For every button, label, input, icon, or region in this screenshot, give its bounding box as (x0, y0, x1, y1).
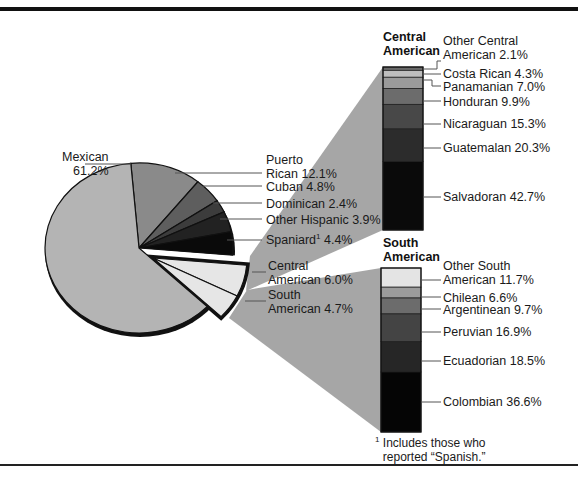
bar-segment-nicaraguan (383, 104, 423, 129)
bar-segment-chilean (381, 287, 421, 298)
south-american-heading: South American (383, 236, 440, 264)
label-panamanian: Panamanian 7.0% (443, 80, 545, 94)
label-other-south: Other South American 11.7% (443, 259, 534, 287)
bar-segment-honduran (383, 88, 423, 104)
pie-chart (45, 163, 247, 337)
label-other-hispanic: Other Hispanic 3.9% (266, 213, 381, 227)
label-argentinean: Argentinean 9.7% (443, 303, 542, 317)
bar-segment-ecuadorian (381, 342, 421, 372)
label-cuban: Cuban 4.8% (266, 180, 335, 194)
label-puerto-rican: Puerto Rican 12.1% (266, 153, 337, 181)
label-dominican: Dominican 2.4% (266, 197, 357, 211)
label-ecuadorian: Ecuadorian 18.5% (443, 354, 545, 368)
label-guatemalan: Guatemalan 20.3% (443, 141, 550, 155)
footnote-text: Includes those who reported “Spanish.” (383, 436, 486, 464)
bar-segment-peruvian (381, 314, 421, 342)
central-american-heading: Central American (383, 30, 440, 58)
bar-segment-colombian (381, 372, 421, 432)
central-leader-lines (423, 61, 441, 197)
footnote: 1 Includes those who reported “Spanish.” (375, 436, 486, 464)
label-spaniard-value: 4.4% (321, 233, 353, 247)
label-salvadoran: Salvadoran 42.7% (443, 190, 545, 204)
bar-segment-panamanian (383, 77, 423, 88)
bar-segment-guatemalan (383, 129, 423, 162)
label-central-american: Central American 6.0% (268, 259, 353, 287)
south-american-stacked-bar (381, 268, 421, 432)
label-nicaraguan: Nicaraguan 15.3% (443, 117, 546, 131)
label-colombian: Colombian 36.6% (443, 395, 542, 409)
bar-segment-argentinean (381, 298, 421, 314)
label-costa-rican: Costa Rican 4.3% (443, 67, 543, 81)
label-spaniard-name: Spaniard (266, 233, 316, 247)
bar-segment-costa-rican (383, 70, 423, 77)
label-spaniard: Spaniard1 4.4% (266, 233, 352, 247)
label-other-central: Other Central American 2.1% (443, 34, 528, 62)
label-mexican: Mexican 61.2% (62, 150, 109, 178)
south-leader-lines (421, 280, 441, 402)
footnote-number: 1 (375, 435, 379, 444)
label-peruvian: Peruvian 16.9% (443, 325, 531, 339)
central-american-stacked-bar (383, 67, 423, 230)
bar-segment-salvadoran (383, 161, 423, 230)
label-honduran: Honduran 9.9% (443, 95, 530, 109)
bar-segment-other-south-american (381, 268, 421, 287)
label-south-american: South American 4.7% (268, 288, 353, 316)
